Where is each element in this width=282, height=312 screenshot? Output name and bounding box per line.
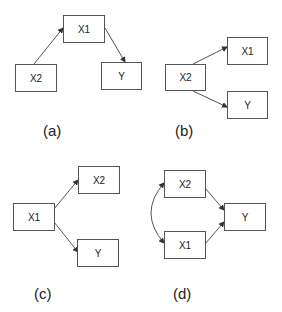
node-b-x2: X2 (165, 64, 206, 91)
node-d-y: Y (224, 203, 266, 231)
node-b-y: Y (227, 91, 268, 119)
node-c-x2: X2 (78, 166, 120, 194)
edge-c-x1-y (54, 222, 78, 252)
node-label: Y (244, 100, 251, 111)
node-label: X1 (78, 24, 90, 35)
node-a-x2: X2 (15, 64, 57, 92)
node-label: X1 (28, 212, 40, 223)
node-b-x1: X1 (227, 37, 268, 65)
node-label: X2 (179, 179, 191, 190)
edge-b-x2-y (193, 91, 227, 107)
node-label: X1 (241, 46, 253, 57)
edge-a-x1-y (105, 28, 125, 62)
node-label: Y (242, 212, 249, 223)
caption-c: (c) (34, 285, 52, 302)
edge-a-x2-x1 (34, 28, 63, 64)
node-label: X2 (93, 175, 105, 186)
node-label: Y (118, 71, 125, 82)
node-c-x1: X1 (13, 203, 55, 231)
edge-d-x2-y (205, 188, 224, 210)
node-a-y: Y (101, 62, 142, 90)
caption-a: (a) (43, 122, 61, 139)
caption-d: (d) (173, 285, 191, 302)
node-d-x2: X2 (164, 170, 206, 198)
edge-d-x1-y (205, 222, 224, 244)
node-label: X2 (30, 73, 42, 84)
node-a-x1: X1 (63, 15, 105, 43)
node-label: Y (95, 248, 102, 259)
node-label: X2 (179, 72, 191, 83)
node-d-x1: X1 (164, 231, 206, 259)
edge-b-x2-x1 (193, 47, 227, 64)
node-label: X1 (179, 240, 191, 251)
edge-d-x1-x2-covariance (151, 183, 164, 243)
edge-c-x1-x2 (54, 180, 78, 209)
node-c-y: Y (77, 239, 119, 267)
caption-b: (b) (175, 122, 193, 139)
